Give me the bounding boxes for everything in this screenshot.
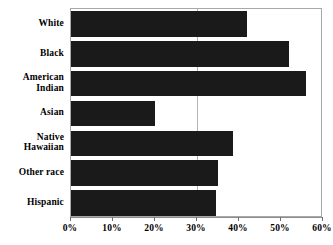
plot-area [70,8,322,217]
category-label: AmericanIndian [0,72,64,93]
bar [71,160,218,186]
x-axis-tick [112,217,113,221]
category-axis-labels: WhiteBlackAmericanIndianAsianNativeHawai… [0,8,66,217]
category-label: White [0,18,64,29]
x-axis-tick [322,217,323,221]
category-label-line: American [0,72,64,83]
bar [71,11,247,37]
x-axis-tick-label: 60% [312,223,331,234]
x-axis: 0%10%20%30%40%50%60% [70,217,322,245]
x-axis-tick-label: 0% [63,223,77,234]
x-axis-tick [196,217,197,221]
x-axis-tick [238,217,239,221]
bar [71,71,306,97]
x-axis-tick [70,217,71,221]
bar [71,131,233,157]
category-label-line: Hispanic [0,197,64,208]
category-label-line: Black [0,48,64,59]
category-label: Hispanic [0,197,64,208]
category-label-line: Other race [0,167,64,178]
bar-chart: WhiteBlackAmericanIndianAsianNativeHawai… [0,0,333,245]
x-axis-tick-label: 20% [144,223,163,234]
x-axis-tick [280,217,281,221]
category-label: NativeHawaiian [0,132,64,153]
category-label-line: Hawaiian [0,142,64,153]
category-label: Other race [0,167,64,178]
category-label-line: Indian [0,83,64,94]
bar [71,41,289,67]
bar [71,101,155,127]
x-axis-tick [154,217,155,221]
x-axis-tick-label: 10% [102,223,121,234]
category-label-line: Asian [0,107,64,118]
category-label-line: Native [0,132,64,143]
x-axis-tick-label: 40% [228,223,247,234]
bar [71,190,216,216]
category-label: Asian [0,107,64,118]
x-axis-tick-label: 30% [186,223,205,234]
category-label-line: White [0,18,64,29]
category-label: Black [0,48,64,59]
x-axis-tick-label: 50% [270,223,289,234]
